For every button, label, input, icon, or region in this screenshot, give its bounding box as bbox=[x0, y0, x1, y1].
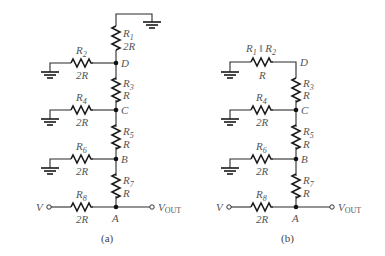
resistor-r6 bbox=[251, 155, 273, 163]
resistor-r1 bbox=[112, 26, 120, 50]
ground-icon bbox=[221, 72, 239, 78]
r6-label: R6 bbox=[75, 140, 87, 155]
input-v-label: V bbox=[216, 201, 224, 213]
wire bbox=[50, 159, 71, 168]
r5-value: R bbox=[302, 138, 310, 150]
resistor-r6 bbox=[71, 155, 93, 163]
output-vout-label: VOUT bbox=[158, 201, 181, 215]
node-c-label: C bbox=[121, 104, 129, 116]
ground-icon bbox=[221, 119, 239, 125]
resistor-r5 bbox=[292, 125, 300, 149]
panel-b: R1 ‖ R2 R D R3 R R5 R R7 R R4 2R C R6 bbox=[216, 42, 361, 245]
wire bbox=[50, 110, 71, 119]
r2-label: R2 bbox=[75, 44, 87, 59]
resistor-r4 bbox=[71, 106, 93, 114]
node-b-dot bbox=[114, 157, 119, 162]
circuit-figure: R1 2R R3 R R5 R R7 R R2 2R D R4 2R C bbox=[0, 0, 385, 256]
r7-value: R bbox=[122, 187, 130, 199]
ground-icon bbox=[41, 119, 59, 125]
ground-icon bbox=[41, 72, 59, 78]
r4-label: R4 bbox=[255, 91, 267, 106]
r8-label: R8 bbox=[75, 188, 87, 203]
ground-icon bbox=[143, 22, 161, 28]
r6-label: R6 bbox=[255, 140, 267, 155]
r8-value: 2R bbox=[76, 213, 89, 225]
caption-a: (a) bbox=[101, 232, 114, 245]
node-b-dot bbox=[294, 157, 299, 162]
caption-b: (b) bbox=[281, 232, 294, 245]
node-c-label: C bbox=[301, 104, 309, 116]
ground-icon bbox=[41, 168, 59, 174]
wire bbox=[230, 110, 251, 119]
r3-value: R bbox=[122, 89, 130, 101]
node-c-dot bbox=[294, 108, 299, 113]
input-terminal bbox=[47, 205, 51, 209]
resistor-r2 bbox=[71, 59, 93, 67]
r6-value: 2R bbox=[256, 165, 269, 177]
node-b-label: B bbox=[301, 153, 308, 165]
r2-value: 2R bbox=[76, 69, 89, 81]
node-a-label: A bbox=[111, 212, 119, 224]
ground-icon bbox=[221, 168, 239, 174]
resistor-r8 bbox=[251, 203, 273, 211]
resistor-r5 bbox=[112, 125, 120, 149]
output-terminal bbox=[330, 205, 334, 209]
node-d-label: D bbox=[120, 57, 129, 69]
panel-a: R1 2R R3 R R5 R R7 R R2 2R D R4 2R C bbox=[36, 14, 181, 245]
node-a-dot bbox=[294, 205, 299, 210]
resistor-r7 bbox=[112, 174, 120, 198]
wire bbox=[273, 62, 296, 78]
wire bbox=[230, 159, 251, 168]
r4-value: 2R bbox=[76, 116, 89, 128]
input-terminal bbox=[227, 205, 231, 209]
r5-value: R bbox=[122, 138, 130, 150]
resistor-r7 bbox=[292, 174, 300, 198]
r1-parallel-r2-value: R bbox=[258, 69, 266, 81]
node-d-label: D bbox=[299, 56, 308, 68]
r8-value: 2R bbox=[256, 213, 269, 225]
node-c-dot bbox=[114, 108, 119, 113]
r4-label: R4 bbox=[75, 91, 87, 106]
node-a-label: A bbox=[291, 212, 299, 224]
wire bbox=[230, 62, 251, 72]
resistor-r3 bbox=[112, 78, 120, 102]
resistor-r8 bbox=[71, 203, 93, 211]
node-b-label: B bbox=[121, 153, 128, 165]
r1-parallel-r2-label: R1 ‖ R2 bbox=[245, 42, 276, 57]
r3-value: R bbox=[302, 89, 310, 101]
r1-value: 2R bbox=[123, 40, 136, 52]
r4-value: 2R bbox=[256, 116, 269, 128]
wire bbox=[50, 63, 71, 72]
resistor-r4 bbox=[251, 106, 273, 114]
resistor-r3 bbox=[292, 78, 300, 102]
r7-value: R bbox=[302, 187, 310, 199]
node-d-dot bbox=[114, 61, 119, 66]
node-a-dot bbox=[114, 205, 119, 210]
resistor-r1-parallel-r2 bbox=[251, 58, 273, 66]
output-vout-label: VOUT bbox=[338, 201, 361, 215]
output-terminal bbox=[150, 205, 154, 209]
input-v-label: V bbox=[36, 201, 44, 213]
r6-value: 2R bbox=[76, 165, 89, 177]
r8-label: R8 bbox=[255, 188, 267, 203]
